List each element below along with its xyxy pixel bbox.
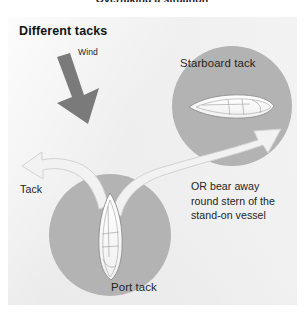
bear-away-note-line-1: OR bear away xyxy=(191,179,275,194)
wind-arrow-icon xyxy=(57,53,99,124)
bear-away-note-line-2: round stern of the xyxy=(191,194,275,209)
diagram-artwork xyxy=(0,0,304,322)
port-tack-label: Port tack xyxy=(111,281,157,293)
bear-away-note-line-3: stand-on vessel xyxy=(191,208,275,223)
figure-canvas: Overtaking a situation Different tacks xyxy=(0,0,304,322)
starboard-tack-label: Starboard tack xyxy=(180,57,255,69)
tack-label: Tack xyxy=(20,183,42,195)
bear-away-note: OR bear away round stern of the stand-on… xyxy=(191,179,275,223)
wind-label: Wind xyxy=(78,47,98,57)
